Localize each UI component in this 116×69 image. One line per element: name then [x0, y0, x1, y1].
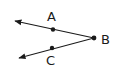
point-b	[92, 36, 97, 41]
label-c: C	[46, 53, 55, 68]
label-a: A	[47, 9, 56, 24]
ray-bc	[19, 38, 94, 58]
point-a	[51, 27, 55, 31]
angle-diagram: A B C	[0, 0, 116, 69]
point-c	[50, 46, 54, 50]
label-b: B	[101, 32, 110, 47]
